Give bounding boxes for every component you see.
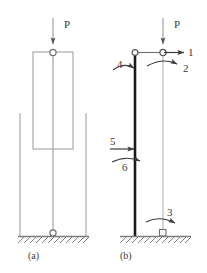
panel-b-base-support-icon	[160, 230, 167, 237]
dof-4-label: 4	[117, 58, 123, 70]
panel-a-top-hinge-icon	[50, 49, 56, 55]
panel-b-ground-hatch	[120, 237, 191, 243]
figure-canvas: P P 1 2 3 4 5 6 (a) (b)	[0, 0, 207, 273]
panel-b-caption: (b)	[120, 250, 132, 262]
dof-2-moment-arrow	[147, 61, 177, 66]
panel-a-base-hinge-icon	[50, 230, 56, 236]
dof-5-label: 5	[110, 135, 116, 147]
panel-a-load-label: P	[64, 18, 70, 30]
structural-diagram-svg: P P 1 2 3 4 5 6 (a) (b)	[0, 0, 207, 273]
panel-a-group	[18, 18, 89, 243]
panel-b-group	[110, 18, 191, 243]
panel-a-ground-hatch	[18, 237, 89, 243]
panel-b-top-left-hinge-icon	[132, 50, 138, 56]
panel-b-load-label: P	[174, 18, 180, 30]
dof-2-label: 2	[183, 62, 189, 74]
dof-3-moment-arrow	[146, 219, 175, 223]
dof-6-label: 6	[122, 161, 128, 173]
dof-3-label: 3	[167, 206, 173, 218]
panel-a-caption: (a)	[28, 250, 39, 262]
dof-1-label: 1	[188, 46, 194, 58]
